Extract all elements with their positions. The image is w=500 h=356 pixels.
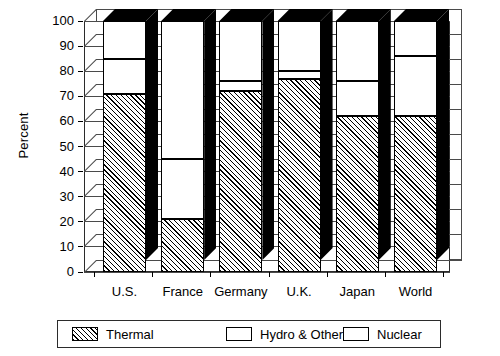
y-tick-label: 30: [40, 190, 74, 203]
bar-segment-thermal[interactable]: [103, 94, 146, 272]
bar-u-k[interactable]: [278, 21, 321, 272]
thermal-hatch-swatch: [72, 327, 98, 341]
chart-legend: ThermalHydro & OtherNuclear: [57, 320, 441, 348]
bar-segment-thermal[interactable]: [336, 116, 379, 272]
y-tick-label: 100: [40, 14, 74, 27]
y-axis-title: Percent: [16, 91, 31, 181]
gridline-depth-edge: [84, 9, 97, 22]
y-tick: [78, 196, 83, 197]
bar-side-face: [146, 9, 158, 260]
y-tick: [78, 121, 83, 122]
x-tick: [327, 272, 328, 277]
bar-segment-thermal[interactable]: [278, 79, 321, 272]
x-tick: [443, 272, 444, 277]
bar-segment-nuclear[interactable]: [278, 21, 321, 71]
x-tick: [385, 272, 386, 277]
y-tick: [78, 171, 83, 172]
y-tick-label: 50: [40, 140, 74, 153]
plot-area: [84, 21, 450, 272]
y-tick: [78, 71, 83, 72]
x-tick-label: World: [374, 284, 457, 299]
x-tick: [210, 272, 211, 277]
hydro-white-swatch: [226, 327, 252, 341]
legend-label: Hydro & Other: [260, 327, 343, 342]
bar-side-face: [321, 9, 333, 260]
y-tick-label: 10: [40, 240, 74, 253]
bar-segment-hydro-other[interactable]: [336, 81, 379, 116]
y-tick-label: 80: [40, 64, 74, 77]
legend-label: Thermal: [106, 327, 154, 342]
y-tick: [78, 246, 83, 247]
y-tick-label: 60: [40, 114, 74, 127]
legend-item-thermal[interactable]: Thermal: [72, 321, 154, 347]
bar-segment-thermal[interactable]: [161, 219, 204, 272]
bar-segment-nuclear[interactable]: [219, 21, 262, 81]
stacked-bar-chart: Percent 0102030405060708090100 U.S.Franc…: [0, 0, 500, 356]
y-tick-label: 40: [40, 165, 74, 178]
bar-germany[interactable]: [219, 21, 262, 272]
bar-segment-nuclear[interactable]: [336, 21, 379, 81]
bar-world[interactable]: [394, 21, 437, 272]
bar-segment-nuclear[interactable]: [161, 21, 204, 159]
bar-segment-nuclear[interactable]: [103, 21, 146, 59]
bar-segment-hydro-other[interactable]: [278, 71, 321, 79]
x-tick: [152, 272, 153, 277]
y-tick: [78, 46, 83, 47]
bar-u-s[interactable]: [103, 21, 146, 272]
bar-france[interactable]: [161, 21, 204, 272]
legend-item-hydro-other[interactable]: Hydro & Other: [226, 321, 343, 347]
bar-segment-thermal[interactable]: [394, 116, 437, 272]
y-tick: [78, 146, 83, 147]
x-tick: [94, 272, 95, 277]
nuclear-checker-swatch: [343, 327, 369, 341]
y-tick: [78, 221, 83, 222]
bar-side-face: [204, 9, 216, 260]
bar-japan[interactable]: [336, 21, 379, 272]
y-tick: [78, 272, 83, 273]
bar-segment-hydro-other[interactable]: [161, 159, 204, 219]
y-tick-label: 90: [40, 39, 74, 52]
bar-segment-hydro-other[interactable]: [394, 56, 437, 116]
legend-item-nuclear[interactable]: Nuclear: [343, 321, 422, 347]
bar-side-face: [379, 9, 391, 260]
y-tick-label: 20: [40, 215, 74, 228]
bar-segment-hydro-other[interactable]: [219, 81, 262, 91]
bar-segment-nuclear[interactable]: [394, 21, 437, 56]
y-tick: [78, 21, 83, 22]
bar-side-face: [262, 9, 274, 260]
y-tick-label: 0: [40, 265, 74, 278]
y-tick: [78, 96, 83, 97]
x-tick: [269, 272, 270, 277]
y-tick-label: 70: [40, 89, 74, 102]
bar-segment-thermal[interactable]: [219, 91, 262, 272]
bar-side-face: [437, 9, 449, 260]
bar-segment-hydro-other[interactable]: [103, 59, 146, 94]
legend-label: Nuclear: [377, 327, 422, 342]
